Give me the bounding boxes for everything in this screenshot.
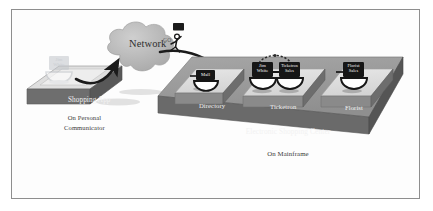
client-caption: On Personal Communicator [64,113,105,132]
diagram-figure: Jim White Mall Jim White Ticketron Sales… [0,0,433,211]
network-label: Network [129,38,166,49]
cloud-ground-shadow [119,89,163,95]
go-label: GO [163,37,172,43]
florist-sales-icon-label: Florist Sales [343,63,364,74]
network-cloud [108,22,174,95]
ticketron-sales-icon-label: Ticketron Sales [279,63,301,74]
mall-icon-label: Mall [196,72,215,77]
jim-white-icon-label: Jim White [252,63,273,74]
carried-monitor-icon [173,23,184,31]
mainframe-caption: On Mainframe [267,150,308,157]
handshake-node [274,54,277,57]
directory-block-label: Directory [199,102,225,109]
florist-block-label: Florist [345,104,363,111]
jim-white-ghost-label: Jim White [49,57,69,68]
shopping-app-platform-label: Shopping App [68,96,111,104]
mainframe-platform-label: Electronic Shopping Center [246,127,331,136]
ghost-icon-shadow [49,80,69,84]
ticketron-block-label: Ticketron [270,103,296,110]
